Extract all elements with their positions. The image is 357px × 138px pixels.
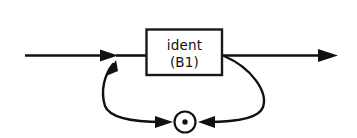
loop-left-up-arrow-icon [106,60,118,76]
loop-right-left-arrow-icon [198,116,215,128]
railroad-diagram: ident (B1) [0,0,357,138]
separator-dot-node [175,112,196,133]
loop-bottom-right-arrow-icon [155,116,173,128]
terminal-box-ident: ident (B1) [147,30,223,76]
exit-rail [221,49,338,62]
entry-rail [25,50,147,62]
terminal-box-label-primary: ident [167,37,202,53]
terminal-box-label-secondary: (B1) [170,54,199,70]
separator-dot-glyph-icon [182,119,187,124]
exit-rail-right-arrow-icon [318,49,338,62]
entry-rail-right-arrow-icon [100,50,118,62]
railroad-diagram-canvas: ident (B1) [0,0,357,138]
